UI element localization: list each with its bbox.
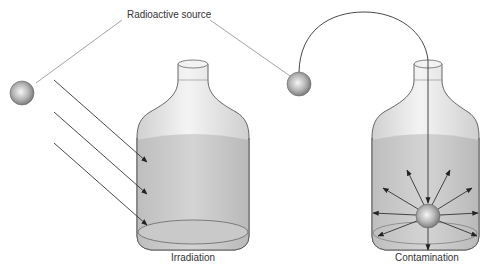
diagram-svg [0, 0, 495, 273]
leader-line-left [36, 20, 122, 83]
caption-contamination: Contamination [395, 251, 459, 263]
diagram-canvas: Radioactive source Irradiation Contamina… [0, 0, 495, 273]
caption-irradiation: Irradiation [171, 251, 215, 263]
irradiation-rays [54, 80, 147, 225]
radioactive-source-external [10, 81, 34, 105]
radioactive-source-internal [416, 204, 440, 228]
bottle-irradiation [137, 60, 249, 250]
leader-line-right [210, 20, 290, 76]
radioactive-source-before-insertion [287, 72, 311, 96]
label-radioactive-source: Radioactive source [127, 8, 211, 20]
